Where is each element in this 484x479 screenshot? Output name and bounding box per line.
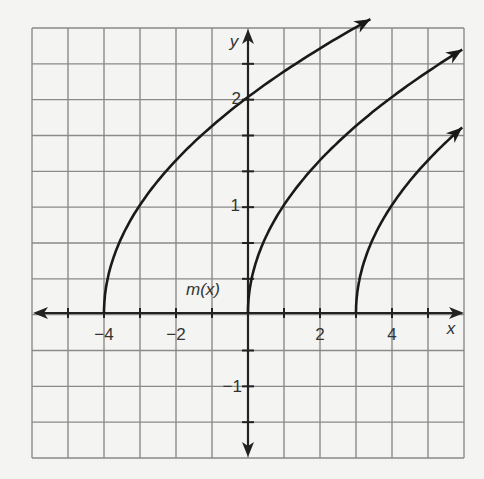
labels: −4 −2 2 4 1 2 −1 x y m(x) xyxy=(94,32,455,396)
y-tick-label: 2 xyxy=(232,89,241,108)
y-tick-label: 1 xyxy=(231,196,240,215)
x-axis-label: x xyxy=(446,319,456,338)
x-tick-label: −4 xyxy=(94,325,113,344)
curve-3 xyxy=(356,128,462,314)
curve-arrow-icon xyxy=(445,50,462,64)
x-tick-label: −2 xyxy=(166,325,185,344)
x-tick-label: 4 xyxy=(387,325,396,344)
curve-2 xyxy=(248,50,462,313)
function-label: m(x) xyxy=(186,280,220,299)
x-tick-label: 2 xyxy=(315,325,324,344)
y-axis-label: y xyxy=(229,32,240,51)
y-tick-label: −1 xyxy=(223,377,242,396)
graph: −4 −2 2 4 1 2 −1 x y m(x) xyxy=(0,0,484,479)
